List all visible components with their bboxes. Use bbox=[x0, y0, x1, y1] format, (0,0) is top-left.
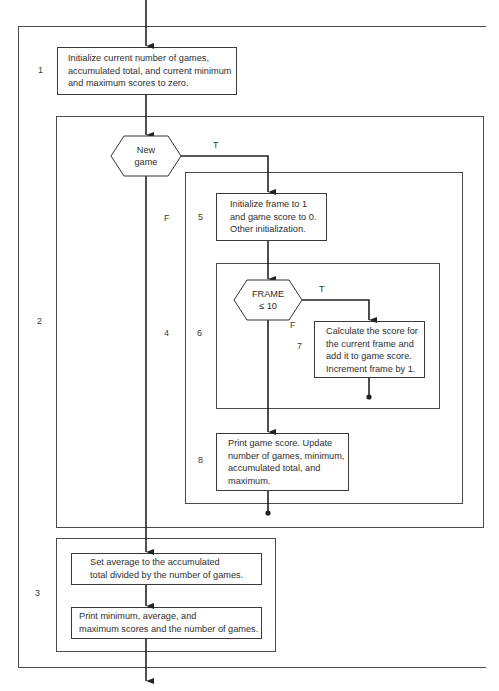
frame-true-label: T bbox=[319, 284, 325, 294]
step-label-4: 4 bbox=[164, 328, 169, 338]
loop-end-dot-frame bbox=[366, 394, 371, 399]
step-label-6: 6 bbox=[197, 328, 202, 338]
step-label-5: 5 bbox=[198, 212, 203, 222]
new-game-false-label: F bbox=[164, 213, 170, 223]
step-label-8: 8 bbox=[198, 455, 203, 465]
step-label-1: 1 bbox=[38, 65, 43, 75]
step-label-2: 2 bbox=[37, 316, 42, 326]
step-label-3: 3 bbox=[35, 588, 40, 598]
frame-decision-text: FRAME ≤ 10 bbox=[243, 288, 293, 312]
step-label-7: 7 bbox=[297, 341, 302, 351]
flow-lines bbox=[0, 0, 499, 691]
new-game-true-label: T bbox=[213, 140, 219, 150]
new-game-decision-text: New game bbox=[126, 144, 166, 168]
frame-false-label: F bbox=[290, 320, 296, 330]
loop-end-dot-game bbox=[265, 510, 270, 515]
